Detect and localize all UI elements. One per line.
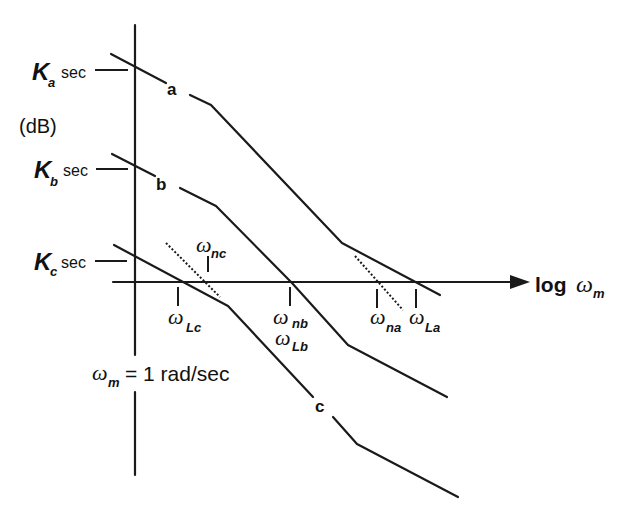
gain-label-a: K a sec <box>32 58 86 90</box>
svg-text:Lc: Lc <box>186 320 202 335</box>
svg-text:na: na <box>386 320 401 335</box>
curve-b-seg1 <box>112 154 155 176</box>
label-omega-nc: ω nc <box>196 232 227 261</box>
x-axis-label: log ω m <box>535 271 605 301</box>
svg-text:m: m <box>108 375 120 390</box>
gain-label-b: K b sec <box>34 156 88 189</box>
axis-arrow-icon <box>510 275 530 289</box>
curve-a-label: a <box>167 80 177 99</box>
svg-text:b: b <box>50 174 58 189</box>
svg-text:sec: sec <box>61 254 86 271</box>
svg-text:m: m <box>593 286 605 301</box>
y-axis-label: (dB) <box>19 115 57 137</box>
svg-text:c: c <box>50 264 58 279</box>
svg-text:sec: sec <box>63 162 88 179</box>
omega-m-equals-1-label: ω m = 1 rad/sec <box>92 360 229 390</box>
svg-text:log: log <box>535 273 567 296</box>
gain-label-c: K c sec <box>34 248 86 279</box>
svg-text:nc: nc <box>211 246 227 261</box>
curve-a-seg2 <box>190 95 440 295</box>
label-omega-Lc: ω Lc <box>168 304 202 335</box>
svg-text:nb: nb <box>292 316 308 331</box>
svg-text:Lb: Lb <box>292 339 308 354</box>
svg-text:ω: ω <box>275 325 291 350</box>
svg-text:ω: ω <box>576 271 593 297</box>
svg-text:ω: ω <box>168 304 184 329</box>
svg-text:sec: sec <box>61 64 86 81</box>
svg-text:= 1 rad/sec: = 1 rad/sec <box>125 362 229 385</box>
label-omega-La: ω La <box>409 304 440 335</box>
curve-c-seg2 <box>333 417 458 497</box>
svg-text:ω: ω <box>370 304 386 329</box>
svg-text:ω: ω <box>409 304 425 329</box>
svg-text:a: a <box>48 75 55 90</box>
label-omega-na: ω na <box>370 304 401 335</box>
bode-diagram: a b c K a sec K b sec K c sec (dB) log ω… <box>0 0 632 512</box>
svg-text:ω: ω <box>196 232 212 257</box>
curve-a-seg1 <box>111 54 166 83</box>
curve-c-label: c <box>315 397 324 416</box>
curve-b-label: b <box>156 175 166 194</box>
svg-text:La: La <box>425 320 440 335</box>
svg-text:ω: ω <box>92 360 108 385</box>
